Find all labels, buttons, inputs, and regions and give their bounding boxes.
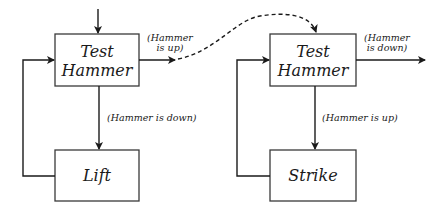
right-test-line2: Hammer [277,61,350,80]
left-feedback-arrow [23,60,55,176]
right-test-line1: Test [296,42,330,61]
left-exit-label-2: is up) [157,42,184,53]
strike-label: Strike [288,166,337,185]
lift-label: Lift [82,166,112,185]
left-test-line2: Hammer [61,61,134,80]
left-down-label: (Hammer is down) [107,112,197,123]
left-test-line1: Test [80,42,114,61]
flowchart: Test Hammer (Hammer is down) Lift (Hamme… [0,0,443,214]
right-exit-label-2: is down) [367,42,408,53]
left-loop: Test Hammer (Hammer is down) Lift (Hamme… [23,9,197,201]
right-loop: Test Hammer (Hammer is up) Strike (Hamme… [237,32,425,201]
right-feedback-arrow [237,60,270,176]
right-down-label: (Hammer is up) [322,112,398,123]
